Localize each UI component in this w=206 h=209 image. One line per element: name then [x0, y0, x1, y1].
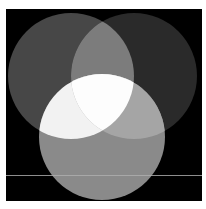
venn-diagram	[0, 0, 206, 209]
